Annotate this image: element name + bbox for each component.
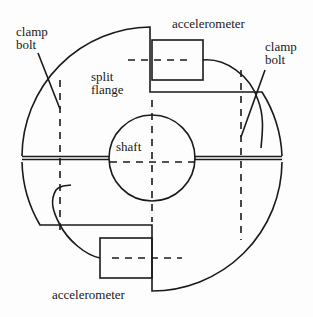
label-line: bolt (265, 53, 297, 66)
clamp-bolt-left-pointer (38, 53, 60, 109)
label-shaft: shaft (116, 140, 141, 153)
cable-bottom (53, 185, 100, 258)
label-clamp-bolt-right: clamp bolt (265, 40, 297, 66)
label-accelerometer-bottom: accelerometer (52, 288, 125, 301)
label-clamp-bolt-left: clamp bolt (16, 25, 48, 51)
split-flange-diagram: clamp bolt clamp bolt split flange shaft… (0, 0, 313, 317)
label-line: bolt (16, 38, 48, 51)
clamp-bolt-right-pointer (241, 70, 265, 137)
label-line: flange (91, 83, 123, 96)
label-accelerometer-top: accelerometer (172, 17, 245, 30)
label-split-flange: split flange (91, 70, 123, 96)
